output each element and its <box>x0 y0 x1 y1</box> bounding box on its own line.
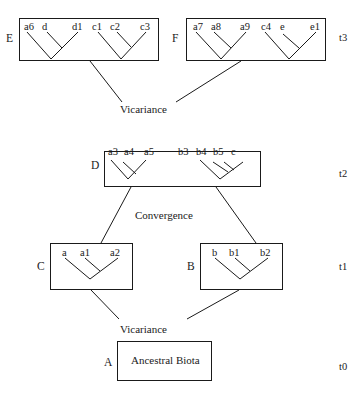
taxon-label: b1 <box>229 247 240 258</box>
taxon-label: c <box>231 146 236 157</box>
box-label-a: A <box>104 357 112 368</box>
box-e <box>20 19 159 61</box>
taxon-label: a1 <box>80 247 90 258</box>
taxon-label: e <box>280 21 285 32</box>
taxon-label: b5 <box>213 146 224 157</box>
taxon-label: e1 <box>310 21 320 32</box>
taxon-label: b <box>212 247 217 258</box>
taxon-label: a8 <box>211 21 221 32</box>
taxon-label: a4 <box>124 146 134 157</box>
box-f <box>187 19 326 61</box>
ancestral-biota-label: Ancestral Biota <box>131 354 200 366</box>
taxon-label: a2 <box>110 247 120 258</box>
box-label-e: E <box>6 33 13 44</box>
taxon-label: a5 <box>144 146 154 157</box>
box-label-f: F <box>172 33 178 44</box>
event-label-vicariance-lower: Vicariance <box>120 323 167 335</box>
diagram-canvas <box>0 0 363 398</box>
box-label-d: D <box>91 160 99 171</box>
taxon-label: a7 <box>193 21 203 32</box>
box-label-c: C <box>37 261 45 272</box>
taxon-label: c4 <box>261 21 271 32</box>
taxon-label: b3 <box>178 146 189 157</box>
taxon-label: a9 <box>240 21 250 32</box>
taxon-label: c1 <box>92 21 102 32</box>
event-label-vicariance-upper: Vicariance <box>120 103 167 115</box>
time-label-t0: t0 <box>339 361 347 372</box>
taxon-label: a3 <box>108 146 118 157</box>
taxon-label: d <box>42 21 47 32</box>
taxon-label: c2 <box>110 21 120 32</box>
time-label-t1: t1 <box>339 261 347 272</box>
taxon-label: a6 <box>24 21 34 32</box>
box-label-b: B <box>187 261 195 272</box>
taxon-label: a <box>62 247 67 258</box>
taxon-label: d1 <box>72 21 83 32</box>
time-label-t3: t3 <box>339 32 347 43</box>
taxon-label: b2 <box>260 247 271 258</box>
time-label-t2: t2 <box>339 168 347 179</box>
taxon-label: b4 <box>196 146 207 157</box>
event-label-convergence: Convergence <box>135 209 193 221</box>
taxon-label: c3 <box>140 21 150 32</box>
